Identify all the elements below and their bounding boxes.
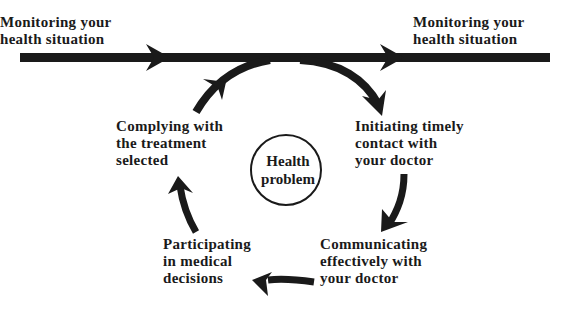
arc-participating-to-complying [180, 186, 196, 232]
arrowhead-to-participating-icon [252, 272, 272, 296]
timeline-end-label: Monitoring your health situation [413, 14, 525, 48]
arc-initiating-to-communicating [388, 174, 404, 226]
step-participating-label: Participating in medical decisions [163, 236, 251, 287]
arc-communicating-to-participating [268, 279, 314, 282]
center-label: Health problem [250, 152, 326, 188]
step-communicating-label: Communicating effectively with your doct… [320, 236, 427, 287]
timeline-start-label: Monitoring your health situation [0, 14, 112, 48]
step-complying-label: Complying with the treatment selected [116, 118, 223, 169]
arc-complying-to-bar [196, 60, 270, 112]
step-initiating-label: Initiating timely contact with your doct… [355, 118, 464, 169]
timeline-bar [20, 53, 550, 62]
